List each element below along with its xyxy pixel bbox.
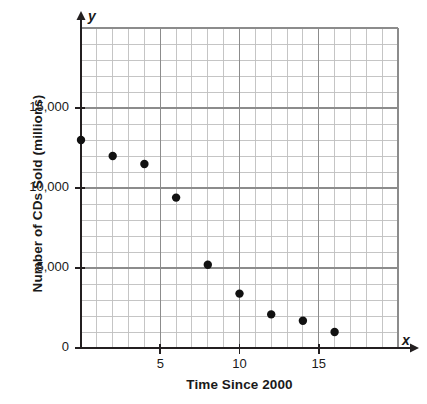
data-point [235,289,243,297]
x-axis-tick-label: 10 [220,356,260,371]
y-axis-tick-label: 0 [0,339,69,354]
x-axis-tick-label: 5 [140,356,180,371]
axis-lines [77,11,420,353]
data-point [267,310,275,318]
scatter-plot-figure: y x 05,00010,00015,000 51015 Number of C… [0,0,427,404]
x-axis-variable-label: x [402,332,410,348]
y-axis-arrowhead [77,11,86,20]
x-axis-arrowhead [410,344,419,353]
data-point [77,136,85,144]
axis-tick-marks [75,108,319,354]
data-point [172,193,180,201]
y-axis-title: Number of CDs Sold (millions) [30,64,45,324]
data-point [204,261,212,269]
y-axis-variable-label: y [88,8,96,24]
data-point [140,160,148,168]
x-axis-tick-label: 15 [299,356,339,371]
data-point [299,317,307,325]
data-point [109,152,117,160]
data-point [330,328,338,336]
x-axis-title: Time Since 2000 [81,377,398,392]
